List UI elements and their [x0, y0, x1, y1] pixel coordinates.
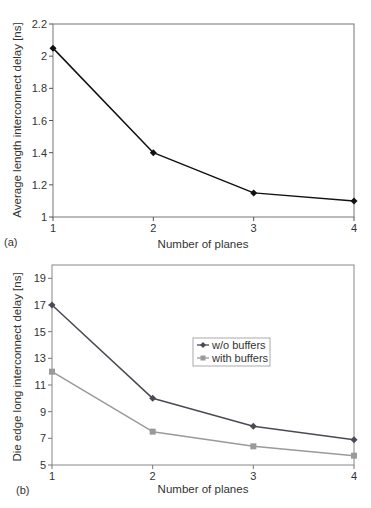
- x-tick-label: 1: [49, 470, 55, 482]
- chart-a-panel-label: (a): [4, 236, 17, 248]
- chart-b-legend: w/o buffers with buffers: [193, 338, 270, 366]
- x-tick-label: 4: [351, 470, 357, 482]
- x-tick-label: 1: [50, 222, 56, 234]
- y-tick-label: 15: [34, 326, 46, 338]
- square-marker-icon: [150, 429, 156, 435]
- x-tick-label: 4: [351, 222, 357, 234]
- square-marker-icon: [250, 443, 256, 449]
- square-marker-icon: [49, 369, 55, 375]
- chart-b-x-ticks: 1234: [49, 465, 357, 482]
- x-tick-label: 2: [150, 222, 156, 234]
- y-tick-label: 19: [34, 272, 46, 284]
- y-tick-label: 1: [41, 211, 47, 223]
- chart-a: 11.21.41.61.822.2 1234 Average length in…: [4, 18, 358, 250]
- y-tick-label: 2.2: [32, 18, 47, 30]
- chart-b: 5791113151719 1234 w/o buffers with buff…: [11, 265, 358, 496]
- figure: 11.21.41.61.822.2 1234 Average length in…: [0, 0, 371, 508]
- chart-b-y-axis-title: Die edge long interconnect delay [ns]: [11, 272, 23, 461]
- x-tick-label: 2: [150, 470, 156, 482]
- y-tick-label: 1.6: [32, 115, 47, 127]
- y-tick-label: 9: [40, 406, 46, 418]
- chart-b-x-axis-title: Number of planes: [158, 483, 249, 495]
- y-tick-label: 17: [34, 299, 46, 311]
- y-tick-label: 2: [41, 50, 47, 62]
- y-tick-label: 1.2: [32, 179, 47, 191]
- legend-label-wo-buffers: w/o buffers: [211, 339, 266, 351]
- chart-a-y-ticks: 11.21.41.61.822.2: [32, 18, 53, 223]
- x-tick-label: 3: [251, 222, 257, 234]
- chart-a-x-ticks: 1234: [50, 217, 357, 234]
- legend-label-with-buffers: with buffers: [211, 352, 269, 364]
- chart-a-x-axis-title: Number of planes: [158, 238, 249, 250]
- chart-a-y-axis-title: Average length interconnect delay [ns]: [11, 22, 23, 217]
- y-tick-label: 7: [40, 432, 46, 444]
- chart-a-plot-area: [53, 24, 354, 217]
- y-tick-label: 1.4: [32, 147, 47, 159]
- y-tick-label: 1.8: [32, 82, 47, 94]
- chart-b-panel-label: (b): [16, 484, 29, 496]
- y-tick-label: 13: [34, 352, 46, 364]
- x-tick-label: 3: [250, 470, 256, 482]
- y-tick-label: 11: [35, 379, 46, 391]
- square-marker-icon: [201, 356, 206, 361]
- square-marker-icon: [351, 453, 357, 459]
- y-tick-label: 5: [40, 459, 46, 471]
